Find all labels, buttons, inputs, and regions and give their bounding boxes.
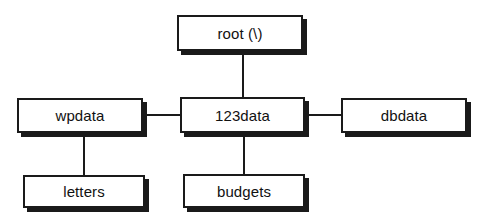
node-dbdata-label: dbdata xyxy=(381,108,427,123)
node-budgets-label: budgets xyxy=(217,184,271,199)
node-root[interactable]: root (\) xyxy=(177,15,303,51)
node-budgets[interactable]: budgets xyxy=(183,174,305,208)
directory-tree-diagram: root (\) wpdata 123data dbdata letters b… xyxy=(0,0,482,222)
node-wpdata[interactable]: wpdata xyxy=(17,98,143,133)
connector-wpdata-to-letters xyxy=(83,133,85,175)
connector-root-to-123data xyxy=(242,51,244,97)
node-letters[interactable]: letters xyxy=(23,175,145,208)
connector-wpdata-to-123data xyxy=(147,114,180,116)
node-dbdata[interactable]: dbdata xyxy=(341,98,467,133)
node-root-label: root (\) xyxy=(218,26,263,41)
node-123data-label: 123data xyxy=(215,108,270,123)
connector-123data-to-dbdata xyxy=(309,114,341,116)
connector-123data-to-budgets xyxy=(243,133,245,174)
node-letters-label: letters xyxy=(63,184,105,199)
node-wpdata-label: wpdata xyxy=(56,108,105,123)
node-123data[interactable]: 123data xyxy=(180,97,305,133)
